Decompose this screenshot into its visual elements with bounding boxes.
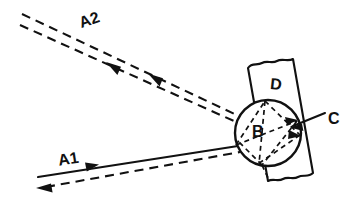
ray-a2-lower-line <box>20 25 245 126</box>
ray-a2-lower-arrowhead <box>106 62 121 75</box>
label-a1: A1 <box>57 150 80 169</box>
ray-a1-return-arrowhead <box>36 183 53 192</box>
label-d: D <box>269 76 282 93</box>
label-c: C <box>328 111 340 127</box>
ray-diagram-figure: A2 A1 B C D <box>0 0 355 209</box>
label-b: B <box>252 124 264 140</box>
ray-a2-lower-group <box>20 25 245 126</box>
ray-a2-upper-line <box>22 14 243 118</box>
ray-a2-upper-group <box>22 14 243 118</box>
diagram-canvas <box>0 0 355 209</box>
